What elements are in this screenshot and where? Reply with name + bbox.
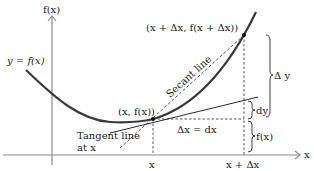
dy-label: dy [256,105,268,116]
point-q-label: (x + Δx, f(x + Δx)) [146,22,238,33]
x-axis-label: x [304,149,310,160]
tangent-line-label: Tangent line [77,130,140,141]
differential-diagram: f(x) x y = f(x) (x + Δx, f(x + Δx)) (x, … [0,0,314,171]
y-axis-label: f(x) [43,4,60,15]
delta-x-label: Δx = dx [177,124,217,135]
delta-y-label: Δ y [274,70,290,81]
secant-line-label: Secant line [164,53,214,99]
tangent-line-label-2: at x [77,142,96,153]
curve-label: y = f(x) [6,55,45,66]
point-p-label: (x, f(x)) [118,106,155,117]
point-q [242,33,246,37]
fx-brace-icon [248,121,255,152]
point-p [151,117,155,121]
fx-label: f(x) [256,131,273,142]
x-plus-dx-tick-label: x + Δx [226,159,260,170]
x-tick-label: x [149,159,155,170]
dy-brace-icon [248,101,255,119]
